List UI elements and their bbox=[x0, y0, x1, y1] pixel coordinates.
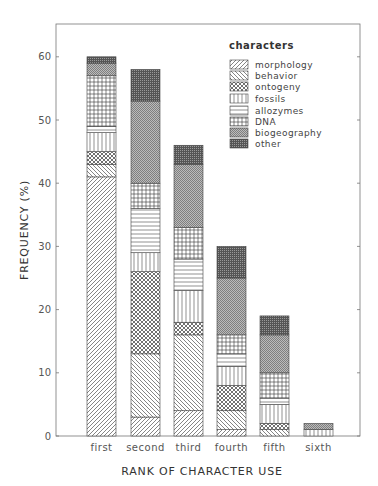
bar-segment-allozymes bbox=[87, 126, 116, 132]
bar-second bbox=[131, 69, 160, 436]
bar-segment-morphology bbox=[131, 417, 160, 436]
x-tick-label: first bbox=[90, 442, 112, 453]
bar-segment-morphology bbox=[87, 177, 116, 436]
bar-fourth bbox=[217, 246, 246, 436]
bar-segment-behavior bbox=[131, 354, 160, 417]
legend-label: ontogeny bbox=[255, 82, 301, 92]
bar-third bbox=[174, 145, 203, 436]
x-axis-title: RANK OF CHARACTER USE bbox=[121, 465, 282, 478]
legend-item-other: other bbox=[230, 139, 281, 149]
bar-segment-fossils bbox=[217, 366, 246, 385]
y-axis-title: FREQUENCY (%) bbox=[18, 180, 31, 280]
bar-segment-fossils bbox=[260, 404, 289, 423]
bar-segment-dna bbox=[174, 227, 203, 259]
bar-segment-other bbox=[131, 69, 160, 101]
bar-segment-biogeography bbox=[87, 63, 116, 76]
bar-segment-fossils bbox=[174, 291, 203, 323]
legend-item-allozymes: allozymes bbox=[230, 106, 304, 116]
bar-segment-biogeography bbox=[174, 164, 203, 227]
bar-segment-fossils bbox=[131, 253, 160, 272]
bar-segment-dna bbox=[260, 373, 289, 398]
bar-segment-behavior bbox=[87, 164, 116, 177]
y-tick-label: 0 bbox=[45, 431, 51, 442]
legend-label: other bbox=[255, 139, 281, 149]
legend-swatch bbox=[230, 71, 248, 80]
bar-segment-fossils bbox=[87, 133, 116, 152]
bar-segment-behavior bbox=[260, 430, 289, 436]
bar-segment-other bbox=[217, 246, 246, 278]
legend-item-ontogeny: ontogeny bbox=[230, 82, 301, 92]
bar-segment-allozymes bbox=[260, 398, 289, 404]
y-tick-label: 10 bbox=[38, 367, 51, 378]
x-tick-label: sixth bbox=[305, 442, 332, 453]
bar-segment-ontogeny bbox=[217, 385, 246, 410]
legend-label: behavior bbox=[255, 71, 298, 81]
bar-segment-allozymes bbox=[131, 208, 160, 252]
bar-segment-biogeography bbox=[260, 335, 289, 373]
bar-sixth bbox=[304, 423, 333, 436]
legend-swatch bbox=[230, 60, 248, 69]
legend-swatch bbox=[230, 82, 248, 91]
bar-segment-fossils bbox=[304, 430, 333, 436]
legend-swatch bbox=[230, 106, 248, 115]
bar-segment-dna bbox=[217, 335, 246, 354]
bar-segment-allozymes bbox=[217, 354, 246, 367]
bar-first bbox=[87, 57, 116, 436]
bar-segment-behavior bbox=[174, 335, 203, 411]
bar-segment-morphology bbox=[217, 430, 246, 436]
legend-item-dna: DNA bbox=[230, 117, 276, 127]
x-tick-label: fifth bbox=[263, 442, 285, 453]
stacked-bar-chart: 0102030405060 firstsecondthirdfourthfift… bbox=[0, 0, 378, 486]
x-axis-labels: firstsecondthirdfourthfifthsixth bbox=[90, 442, 331, 453]
bar-fifth bbox=[260, 316, 289, 436]
bar-segment-dna bbox=[131, 183, 160, 208]
legend-swatch bbox=[230, 117, 248, 126]
legend-label: DNA bbox=[255, 117, 276, 127]
bar-segment-ontogeny bbox=[87, 152, 116, 165]
bar-segment-biogeography bbox=[217, 278, 246, 335]
bar-segment-biogeography bbox=[304, 423, 333, 429]
bar-segment-morphology bbox=[174, 411, 203, 436]
bar-segment-other bbox=[174, 145, 203, 164]
bar-segment-ontogeny bbox=[131, 272, 160, 354]
legend-swatch bbox=[230, 128, 248, 137]
legend-item-biogeography: biogeography bbox=[230, 128, 322, 138]
legend-label: fossils bbox=[255, 94, 286, 104]
bar-segment-allozymes bbox=[174, 259, 203, 291]
legend-swatch bbox=[230, 94, 248, 103]
legend-swatch bbox=[230, 139, 248, 148]
y-tick-label: 30 bbox=[38, 241, 51, 252]
legend-title: characters bbox=[229, 40, 294, 51]
legend-item-morphology: morphology bbox=[230, 60, 313, 70]
bar-segment-other bbox=[260, 316, 289, 335]
y-tick-label: 50 bbox=[38, 115, 51, 126]
bar-segment-ontogeny bbox=[174, 322, 203, 335]
bar-segment-biogeography bbox=[131, 101, 160, 183]
y-tick-label: 20 bbox=[38, 304, 51, 315]
legend-label: morphology bbox=[255, 60, 313, 70]
y-tick-label: 40 bbox=[38, 178, 51, 189]
legend-label: biogeography bbox=[255, 128, 322, 138]
legend-item-behavior: behavior bbox=[230, 71, 298, 81]
legend: characters morphologybehaviorontogenyfos… bbox=[229, 40, 322, 149]
legend-label: allozymes bbox=[255, 106, 304, 116]
bar-segment-dna bbox=[87, 76, 116, 127]
bar-segment-other bbox=[87, 57, 116, 63]
y-tick-label: 60 bbox=[38, 51, 51, 62]
x-tick-label: fourth bbox=[215, 442, 248, 453]
bar-segment-ontogeny bbox=[260, 423, 289, 429]
legend-item-fossils: fossils bbox=[230, 94, 286, 104]
x-tick-label: second bbox=[126, 442, 165, 453]
x-tick-label: third bbox=[176, 442, 202, 453]
bar-segment-behavior bbox=[217, 411, 246, 430]
